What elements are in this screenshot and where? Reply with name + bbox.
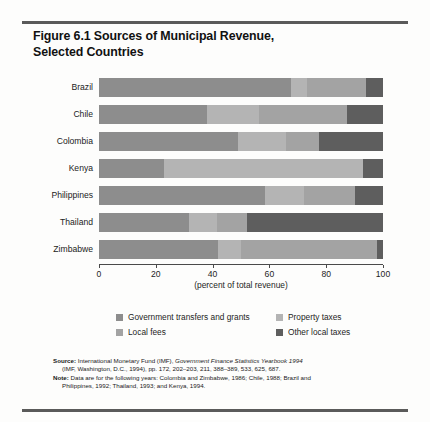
bar-row bbox=[99, 213, 383, 232]
bar-segment bbox=[377, 240, 383, 259]
x-axis-title: (percent of total revenue) bbox=[99, 280, 383, 290]
swatch-other-local-taxes-icon bbox=[276, 329, 283, 336]
note-text: Data are for the following years: Colomb… bbox=[69, 374, 311, 381]
x-axis-tick-label: 60 bbox=[265, 269, 275, 279]
figure-notes: Source: International Monetary Fund (IMF… bbox=[53, 357, 408, 391]
stacked-bar-chart: BrazilChileColombiaKenyaPhilippinesThail… bbox=[0, 0, 430, 300]
x-axis-tick bbox=[156, 265, 157, 268]
legend-label-other-local-taxes: Other local taxes bbox=[288, 327, 350, 337]
bar-segment bbox=[189, 213, 217, 232]
swatch-gov-transfers-icon bbox=[116, 314, 123, 321]
bar-segment bbox=[259, 105, 347, 124]
legend-label-property-taxes: Property taxes bbox=[288, 312, 342, 322]
legend-row-1: Government transfers and grants Property… bbox=[116, 312, 406, 322]
swatch-property-taxes-icon bbox=[276, 314, 283, 321]
category-label: Thailand bbox=[5, 213, 93, 232]
bar-segment bbox=[99, 186, 265, 205]
bar-row bbox=[99, 159, 383, 178]
legend-row-2: Local fees Other local taxes bbox=[116, 327, 406, 337]
legend-item-property-taxes: Property taxes bbox=[276, 312, 342, 322]
x-axis-tick-label: 100 bbox=[376, 269, 390, 279]
bar-segment bbox=[241, 240, 378, 259]
bottom-rule bbox=[22, 409, 408, 412]
bar-segment bbox=[207, 105, 259, 124]
x-axis-line bbox=[99, 264, 383, 265]
bar-segment bbox=[99, 105, 207, 124]
source-publication: Government Finance Statistics Yearbook 1… bbox=[175, 357, 303, 364]
bar-segment bbox=[99, 213, 189, 232]
x-axis-tick-label: 0 bbox=[97, 269, 102, 279]
category-label: Kenya bbox=[5, 159, 93, 178]
bar-row bbox=[99, 240, 383, 259]
data-note: Note: Data are for the following years: … bbox=[53, 374, 408, 390]
bar-segment bbox=[265, 186, 303, 205]
legend-label-local-fees: Local fees bbox=[128, 327, 166, 337]
x-axis-tick bbox=[383, 265, 384, 268]
bar-segment bbox=[99, 78, 291, 97]
bar-segment bbox=[291, 78, 307, 97]
category-label: Brazil bbox=[5, 78, 93, 97]
bar-segment bbox=[347, 105, 383, 124]
legend-item-gov-transfers: Government transfers and grants bbox=[116, 312, 276, 322]
bar-row bbox=[99, 186, 383, 205]
source-text: International Monetary Fund (IMF), bbox=[76, 357, 175, 364]
category-label: Philippines bbox=[5, 186, 93, 205]
bar-segment bbox=[319, 132, 383, 151]
bar-segment bbox=[307, 78, 366, 97]
bar-segment bbox=[164, 159, 363, 178]
note-label: Note: bbox=[53, 374, 69, 381]
plot-area bbox=[99, 78, 383, 264]
legend-item-other-local-taxes: Other local taxes bbox=[276, 327, 350, 337]
source-label: Source: bbox=[53, 357, 76, 364]
x-axis-tick-label: 20 bbox=[151, 269, 161, 279]
x-axis-tick-label: 40 bbox=[208, 269, 218, 279]
category-label: Chile bbox=[5, 105, 93, 124]
bar-row bbox=[99, 105, 383, 124]
legend-item-local-fees: Local fees bbox=[116, 327, 276, 337]
bar-row bbox=[99, 132, 383, 151]
bar-segment bbox=[366, 78, 383, 97]
bar-segment bbox=[304, 186, 355, 205]
swatch-local-fees-icon bbox=[116, 329, 123, 336]
bar-segment bbox=[355, 186, 383, 205]
figure-container: Figure 6.1 Sources of Municipal Revenue,… bbox=[0, 0, 430, 422]
source-citation-line2: (IMF, Washington, D.C., 1994), pp. 172, … bbox=[53, 365, 408, 373]
bar-segment bbox=[238, 132, 286, 151]
bar-segment bbox=[217, 213, 247, 232]
x-axis-tick bbox=[213, 265, 214, 268]
bar-segment bbox=[218, 240, 240, 259]
legend-label-gov-transfers: Government transfers and grants bbox=[128, 312, 250, 322]
category-label: Zimbabwe bbox=[5, 240, 93, 259]
x-axis-tick bbox=[99, 265, 100, 268]
bar-segment bbox=[247, 213, 383, 232]
x-axis-tick bbox=[326, 265, 327, 268]
note-line2: Philippines, 1992; Thailand, 1993; and K… bbox=[53, 382, 408, 390]
bar-segment bbox=[363, 159, 383, 178]
bar-row bbox=[99, 78, 383, 97]
bar-segment bbox=[99, 132, 238, 151]
x-axis-tick bbox=[269, 265, 270, 268]
chart-legend: Government transfers and grants Property… bbox=[116, 312, 406, 342]
x-axis-tick-label: 80 bbox=[321, 269, 331, 279]
bar-segment bbox=[99, 159, 164, 178]
source-note: Source: International Monetary Fund (IMF… bbox=[53, 357, 408, 373]
bar-segment bbox=[286, 132, 318, 151]
category-label: Colombia bbox=[5, 132, 93, 151]
bar-segment bbox=[99, 240, 218, 259]
